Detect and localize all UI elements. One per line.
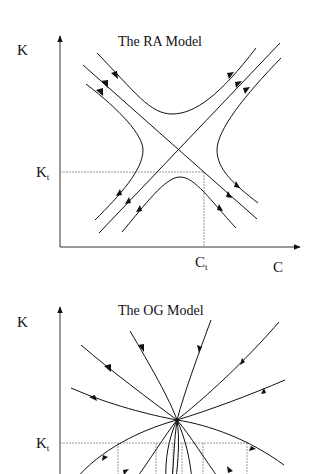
arrow-icon [102,455,108,461]
og-title: The OG Model [118,304,204,318]
og-y-axis-label: K [17,315,28,330]
arrow-icon [217,204,223,211]
arrow-icon [116,189,122,196]
stable-arm [83,65,257,219]
flow-arrows [96,71,250,212]
og-model-diagram: The OG Model K Kt [0,290,320,474]
arrow-icon [123,469,129,474]
arrow-icon [125,197,131,204]
trajectory-top [97,48,256,114]
arrow-icon [101,80,108,88]
trajectory [135,322,279,474]
arrow-icon [136,205,142,212]
trajectory [177,420,192,474]
ra-title: The RA Model [118,35,202,49]
ra-model-diagram: The RA Model K C Kt Ct [0,0,320,290]
trajectory-right [217,58,281,203]
ra-kt-label: Kt [36,165,49,180]
arrow-icon [111,71,118,79]
ra-y-axis-label: K [17,43,28,58]
ra-ct-label: Ct [195,255,208,270]
ra-x-axis-label: C [273,260,283,275]
unstable-arm [99,43,280,233]
steady-state-point [175,418,179,422]
trajectory-left [86,84,143,220]
arrow-icon [234,181,240,188]
arrow-icon [227,466,233,473]
og-kt-label: Kt [36,436,49,451]
